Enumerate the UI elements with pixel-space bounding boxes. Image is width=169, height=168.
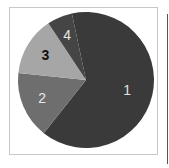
pie-label-2: 2 <box>38 90 46 106</box>
pie-label-1: 1 <box>123 82 131 98</box>
pie-slices <box>18 12 154 148</box>
adjacent-table-edge <box>167 14 169 164</box>
pie-label-4: 4 <box>63 27 71 43</box>
pie-chart: 1234 <box>0 0 169 168</box>
pie-label-3: 3 <box>41 47 49 63</box>
